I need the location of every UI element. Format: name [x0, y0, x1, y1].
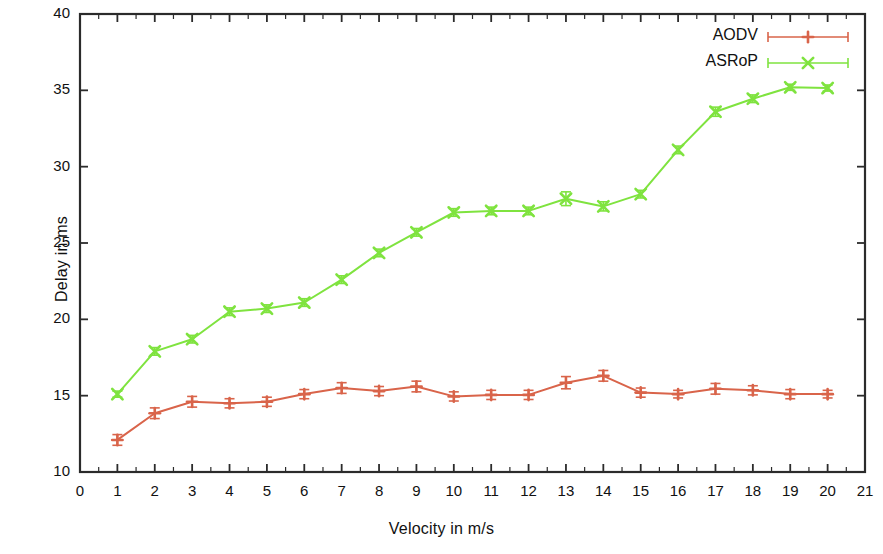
x-tick-label: 5: [252, 482, 282, 499]
x-tick-label: 9: [401, 482, 431, 499]
x-tick-label: 15: [626, 482, 656, 499]
x-tick-label: 8: [364, 482, 394, 499]
legend-label-aodv: AODV: [588, 26, 758, 44]
x-tick-label: 20: [813, 482, 843, 499]
legend-samples: [768, 32, 848, 68]
x-tick-label: 16: [663, 482, 693, 499]
x-tick-label: 7: [327, 482, 357, 499]
x-tick-label: 11: [476, 482, 506, 499]
plot-frame: [80, 14, 865, 472]
x-tick-label: 0: [65, 482, 95, 499]
axis-frame: [80, 14, 865, 472]
axis-ticks: [80, 14, 865, 472]
x-tick-label: 3: [177, 482, 207, 499]
y-tick-label: 35: [24, 80, 70, 97]
y-tick-label: 10: [24, 462, 70, 479]
y-tick-label: 40: [24, 4, 70, 21]
data-series-group: [112, 82, 833, 445]
plot-canvas: [0, 0, 883, 554]
x-tick-label: 19: [775, 482, 805, 499]
x-tick-label: 17: [700, 482, 730, 499]
x-tick-label: 4: [215, 482, 245, 499]
series-line-asrop: [117, 87, 827, 394]
x-tick-label: 10: [439, 482, 469, 499]
y-tick-label: 15: [24, 386, 70, 403]
x-tick-label: 13: [551, 482, 581, 499]
x-tick-label: 6: [289, 482, 319, 499]
series-line-aodv: [117, 376, 827, 440]
x-tick-label: 12: [514, 482, 544, 499]
x-tick-label: 2: [140, 482, 170, 499]
y-axis-title: Delay in ms: [53, 159, 71, 359]
x-tick-label: 14: [588, 482, 618, 499]
delay-vs-velocity-chart: 10152025303540 0123456789101112131415161…: [0, 0, 883, 554]
x-tick-label: 18: [738, 482, 768, 499]
legend-label-asrop: ASRoP: [588, 52, 758, 70]
x-tick-label: 21: [850, 482, 880, 499]
x-tick-label: 1: [102, 482, 132, 499]
x-axis-title: Velocity in m/s: [0, 520, 883, 538]
